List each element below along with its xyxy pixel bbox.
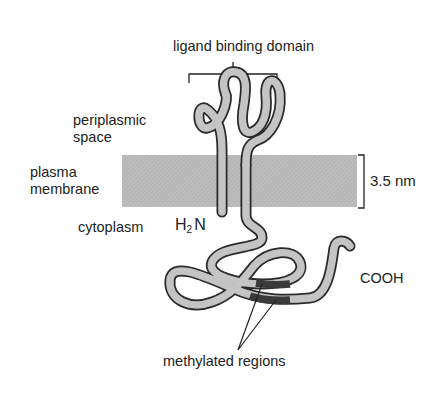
- n-terminus-label: H2N: [175, 216, 206, 238]
- periplasmic-space-label: periplasmic space: [73, 112, 146, 146]
- c-terminus-label: COOH: [360, 270, 404, 287]
- methylated-regions-label: methylated regions: [163, 353, 286, 370]
- membrane-thickness-label: 3.5 nm: [370, 172, 416, 189]
- ligand-binding-domain-label: ligand binding domain: [173, 38, 314, 55]
- receptor-diagram: [0, 0, 448, 400]
- methylated-region-upper: [256, 283, 290, 285]
- plasma-membrane-label: plasma membrane: [30, 164, 99, 198]
- cytoplasm-label: cytoplasm: [78, 219, 143, 236]
- thickness-bracket: [358, 155, 364, 208]
- plasma-membrane: [122, 155, 357, 207]
